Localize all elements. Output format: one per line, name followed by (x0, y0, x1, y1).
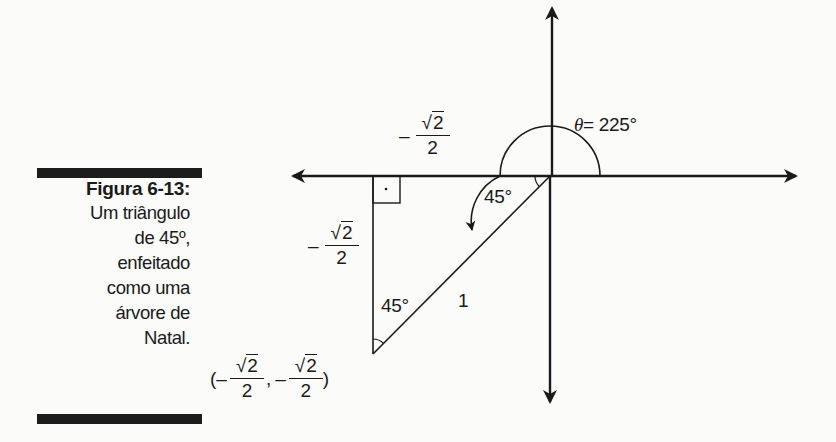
theta-label: θ= 225° (574, 114, 637, 136)
point-coordinates-label: ( – √22 , – √22 ) (210, 355, 329, 403)
theta-value: = 225° (583, 114, 637, 135)
unit-circle-diagram (0, 0, 836, 442)
y-axis (550, 8, 552, 402)
origin-angle-label: 45° (484, 186, 512, 208)
theta-symbol: θ (574, 114, 583, 135)
x-leg-label: – √22 (399, 112, 450, 160)
bottom-angle-arc (373, 339, 384, 343)
right-angle-marker (373, 176, 400, 203)
y-leg-label: – √22 (308, 222, 359, 270)
bottom-angle-label: 45° (381, 295, 409, 317)
hypotenuse-label: 1 (458, 290, 468, 312)
origin-angle-arc (535, 176, 539, 187)
